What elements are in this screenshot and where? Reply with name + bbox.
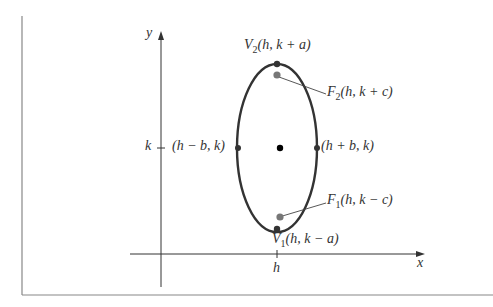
v1-coords: (h, k − a) xyxy=(286,231,339,246)
y-tick-label: k xyxy=(145,138,151,154)
v1-label: V1(h, k − a) xyxy=(272,231,339,249)
covertex-right-point xyxy=(314,145,320,151)
y-axis-label: y xyxy=(146,25,152,41)
f2-name: F xyxy=(327,84,336,99)
f2-label: F2(h, k + c) xyxy=(327,84,393,102)
v2-coords: (h, k + a) xyxy=(258,37,311,52)
y-axis-arrow-icon xyxy=(158,31,164,40)
v1-name: V xyxy=(272,231,281,246)
covertex-left-point xyxy=(235,145,241,151)
vertex-v2-point xyxy=(274,61,280,67)
f1-coords: (h, k − c) xyxy=(341,192,393,207)
right-covertex-label: (h + b, k) xyxy=(321,138,374,154)
left-covertex-label: (h − b, k) xyxy=(172,138,225,154)
f2-coords: (h, k + c) xyxy=(341,84,393,99)
center-point xyxy=(277,145,283,151)
x-tick-label: h xyxy=(273,260,280,276)
focus-f1-point xyxy=(276,213,283,220)
f1-name: F xyxy=(327,192,336,207)
f1-label: F1(h, k − c) xyxy=(327,192,393,210)
v2-name: V xyxy=(244,37,253,52)
f2-leader-line xyxy=(279,77,326,94)
x-axis-label: x xyxy=(417,255,423,271)
v2-label: V2(h, k + a) xyxy=(244,37,311,55)
focus-f2-point xyxy=(273,71,280,78)
